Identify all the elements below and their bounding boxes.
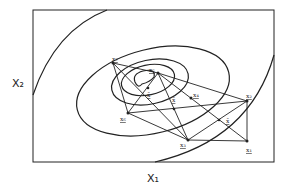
label-x2: x₂: [246, 92, 252, 99]
label-x4: x₄: [193, 91, 199, 98]
centroid-3: [147, 87, 150, 90]
label-centroid-1: x̄: [226, 117, 230, 124]
label-x7: x₇: [112, 55, 118, 62]
centroid-1: [218, 119, 221, 122]
point-x1: [246, 140, 249, 143]
plot-frame: [33, 10, 274, 162]
contour-diagram: x₁ x₂ x₃ x₄ x₅ x₆ x₇ x̄ x̄ x̄ X₂ X₁: [0, 0, 285, 191]
y-axis-label: X₂: [12, 77, 24, 90]
point-x6: [127, 112, 130, 115]
label-x6: x₆: [120, 115, 126, 122]
contour-lines: [33, 10, 274, 162]
contour-mid: [107, 52, 192, 111]
label-centroid-2: x̄: [172, 96, 176, 103]
centroid-2: [173, 108, 176, 111]
label-x3: x₃: [180, 141, 186, 148]
contour-outer-left: [33, 10, 107, 95]
x-axis-label: X₁: [147, 172, 159, 185]
label-x5: x₅: [149, 66, 155, 73]
point-x5: [157, 72, 160, 75]
point-x3: [187, 139, 190, 142]
data-points: [112, 62, 249, 143]
contour-large: [67, 31, 239, 150]
point-x2: [246, 100, 249, 103]
label-x1: x₁: [246, 146, 252, 153]
